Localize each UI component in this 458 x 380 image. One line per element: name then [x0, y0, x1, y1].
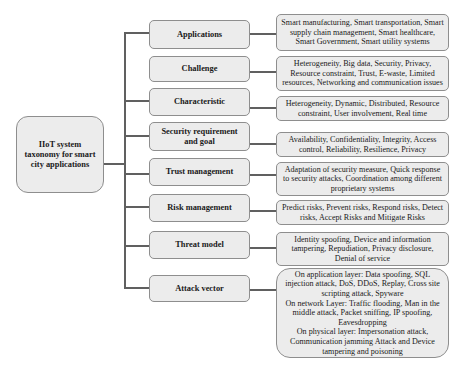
- category-label: Characteristic: [174, 97, 225, 107]
- attack-application-layer: On application layer: Data spoofing, SQL…: [281, 270, 444, 299]
- description-text: Identity spoofing, Device and informatio…: [281, 235, 444, 264]
- category-label: Trust management: [166, 167, 234, 177]
- category-label: Risk management: [167, 203, 231, 213]
- link-attack: [250, 289, 276, 291]
- description-text: Adaptation of security measure, Quick re…: [281, 165, 444, 194]
- description-text: Heterogeneity, Big data, Security, Priva…: [281, 59, 444, 88]
- link-security: [250, 143, 276, 145]
- description-attack-vector: On application layer: Data spoofing, SQL…: [276, 268, 449, 358]
- description-risk-management: Predict risks, Prevent risks, Respond ri…: [276, 200, 449, 225]
- category-attack-vector: Attack vector: [149, 275, 250, 302]
- description-text: Heterogeneity, Dynamic, Distributed, Res…: [281, 99, 444, 118]
- root-connector: [104, 163, 125, 165]
- link-challenge: [250, 71, 276, 73]
- description-trust-management: Adaptation of security measure, Quick re…: [276, 162, 449, 196]
- description-applications: Smart manufacturing, Smart transportatio…: [276, 14, 449, 51]
- spine: [124, 32, 126, 289]
- category-challenge: Challenge: [149, 56, 250, 82]
- category-label: Security requirement and goal: [154, 127, 245, 147]
- description-challenge: Heterogeneity, Big data, Security, Priva…: [276, 56, 449, 91]
- branch-threat: [124, 245, 149, 247]
- description-security-requirement: Availability, Confidentiality, Integrity…: [276, 132, 449, 157]
- category-label: Challenge: [182, 64, 218, 74]
- description-characteristic: Heterogeneity, Dynamic, Distributed, Res…: [276, 96, 449, 121]
- category-label: Threat model: [175, 240, 223, 250]
- category-label: Attack vector: [175, 284, 224, 294]
- root-label: IIoT system taxonomy for smart city appl…: [23, 140, 97, 170]
- branch-applications: [124, 32, 149, 34]
- branch-security: [124, 135, 149, 137]
- branch-trust: [124, 173, 149, 175]
- description-text: Availability, Confidentiality, Integrity…: [281, 135, 444, 154]
- link-risk: [250, 210, 276, 212]
- category-applications: Applications: [149, 20, 250, 49]
- category-label: Applications: [177, 30, 222, 40]
- branch-attack: [124, 287, 149, 289]
- category-security-requirement: Security requirement and goal: [149, 122, 250, 151]
- category-risk-management: Risk management: [149, 194, 250, 222]
- link-threat: [250, 247, 276, 249]
- root-node: IIoT system taxonomy for smart city appl…: [16, 116, 104, 193]
- description-threat-model: Identity spoofing, Device and informatio…: [276, 232, 449, 266]
- category-trust-management: Trust management: [149, 158, 250, 186]
- branch-risk: [124, 206, 149, 208]
- description-text: Smart manufacturing, Smart transportatio…: [281, 18, 444, 47]
- link-trust: [250, 174, 276, 176]
- link-characteristic: [250, 107, 276, 109]
- description-text: Predict risks, Prevent risks, Respond ri…: [281, 203, 444, 222]
- category-characteristic: Characteristic: [149, 88, 250, 116]
- attack-network-layer: On network Layer: Traffic flooding, Man …: [281, 299, 444, 328]
- category-threat-model: Threat model: [149, 231, 250, 259]
- attack-physical-layer: On physical layer: Impersonation attack,…: [281, 327, 444, 356]
- branch-characteristic: [124, 100, 149, 102]
- link-applications: [250, 33, 276, 35]
